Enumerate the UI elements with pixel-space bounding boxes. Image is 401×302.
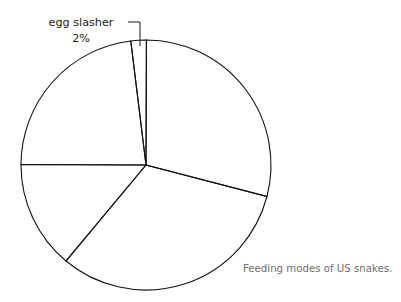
slice-label-mild-venom-line1: mild venom/direct (22, 173, 124, 186)
figure-caption: Feeding modes of US snakes. (243, 263, 392, 274)
slice-label-venom-value: 23% (63, 110, 88, 123)
slice-label-mild-venom-value: 14% (61, 205, 86, 218)
egg-slasher-leader-line (128, 22, 140, 46)
slice-label-constriction-name: constriction (174, 94, 240, 107)
slice-label-egg-slasher-value: 2% (72, 32, 90, 45)
slice-label-direct-swallow-value: 32% (159, 269, 184, 282)
slice-label-constriction-value: 29% (195, 110, 220, 123)
pie-chart-canvas: constriction 29% direct swallow 32% mild… (0, 0, 401, 302)
slice-label-venom-name: venom (56, 94, 94, 107)
slice-label-egg-slasher-name: egg slasher (49, 16, 114, 29)
slice-label-mild-venom-line2: swallow (51, 189, 95, 202)
pie-chart-figure: constriction 29% direct swallow 32% mild… (0, 0, 401, 302)
slice-label-direct-swallow-name: direct swallow (131, 253, 211, 266)
